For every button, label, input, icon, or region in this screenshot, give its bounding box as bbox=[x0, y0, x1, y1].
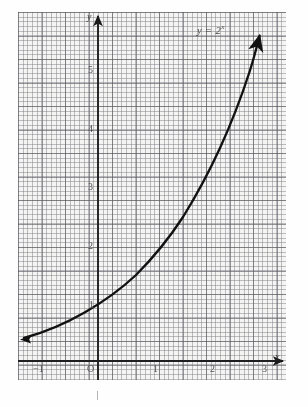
x-tick-3: 3 bbox=[262, 364, 267, 374]
curve-equation-label: y = 2x bbox=[197, 24, 225, 36]
curve-equation-text: y = 2 bbox=[197, 25, 221, 36]
y-axis-label: y bbox=[87, 12, 91, 22]
y-tick-2: 2 bbox=[88, 241, 93, 251]
x-tick-2: 2 bbox=[210, 364, 215, 374]
graph-figure: 5 4 3 2 1 −1 O 1 2 3 y x y = 2x bbox=[0, 0, 308, 407]
x-axis-label: x bbox=[275, 352, 279, 362]
y-tick-5: 5 bbox=[88, 65, 93, 75]
origin-label: O bbox=[87, 364, 94, 374]
curve-equation-exponent: x bbox=[221, 23, 225, 31]
y-tick-3: 3 bbox=[88, 182, 93, 192]
x-tick-1: 1 bbox=[153, 364, 158, 374]
plot-area bbox=[0, 0, 308, 407]
x-tick-minus-1: −1 bbox=[33, 364, 44, 374]
y-tick-1: 1 bbox=[89, 300, 94, 310]
y-tick-4: 4 bbox=[88, 124, 93, 134]
exponential-curve bbox=[24, 36, 260, 338]
stray-tick-mark bbox=[97, 391, 98, 400]
